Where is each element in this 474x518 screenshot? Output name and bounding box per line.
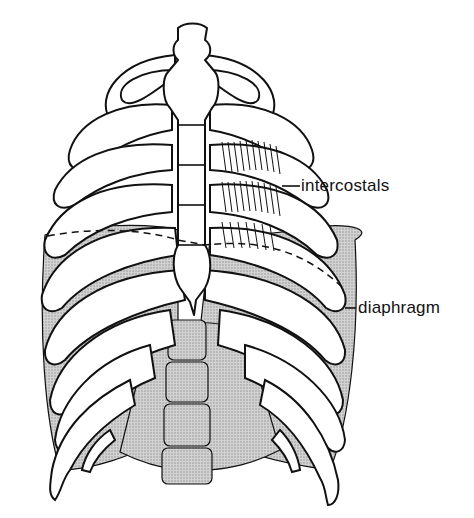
diaphragm-label: diaphragm <box>358 298 440 318</box>
rib-cage-illustration <box>0 0 474 518</box>
intercostals-label: intercostals <box>301 176 389 196</box>
